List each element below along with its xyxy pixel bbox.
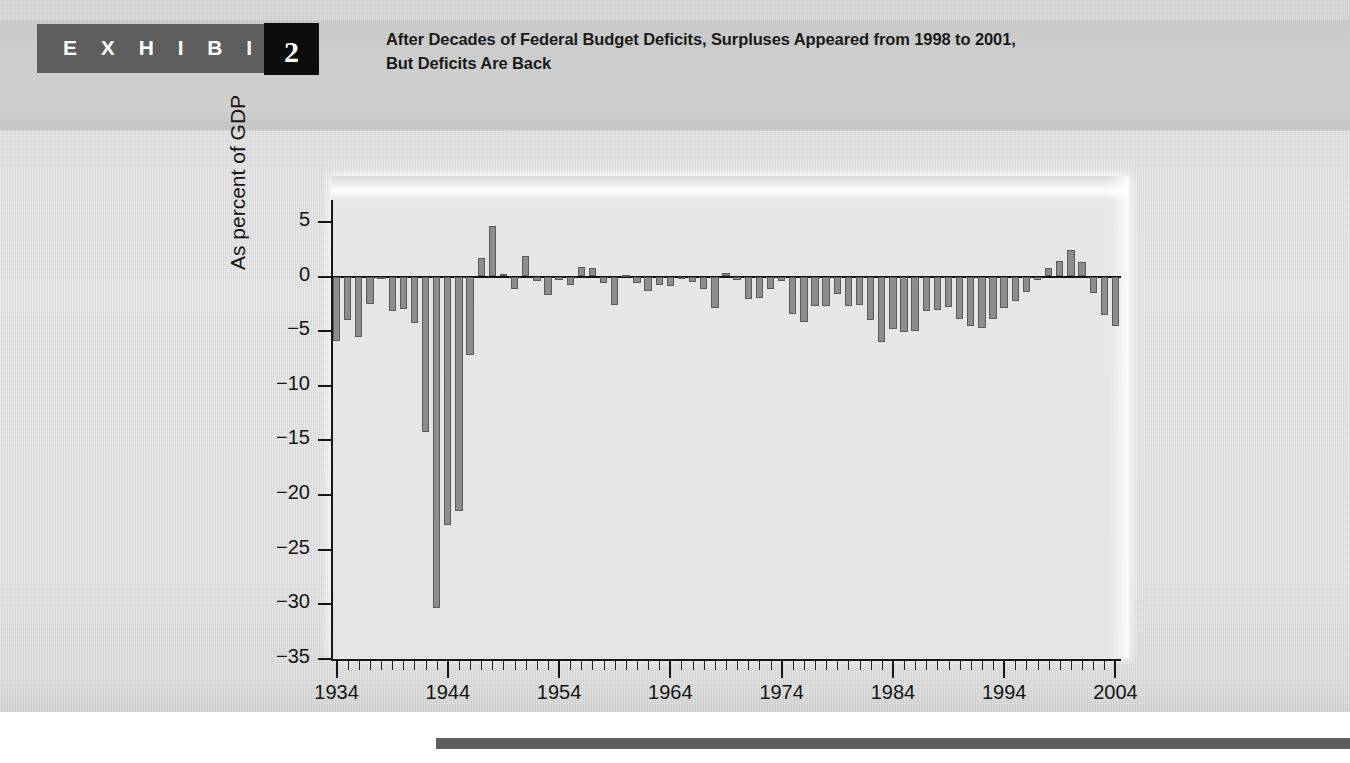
x-tick-minor-1990	[960, 661, 961, 670]
bar-1976	[800, 277, 807, 323]
x-tick-major-1944	[447, 661, 449, 678]
x-tick-label-1984: 1984	[871, 681, 916, 704]
bar-1948	[489, 226, 496, 276]
bar-1951	[522, 256, 529, 277]
exhibit-title: After Decades of Federal Budget Deficits…	[386, 27, 1186, 75]
x-tick-minor-1983	[882, 661, 883, 670]
x-tick-minor-1936	[359, 661, 360, 670]
x-tick-minor-1972	[759, 661, 760, 670]
x-tick-minor-1987	[926, 661, 927, 670]
y-tick--25	[318, 549, 331, 551]
x-tick-label-1964: 1964	[648, 681, 693, 704]
x-tick-label-1954: 1954	[537, 681, 582, 704]
bar-1960	[622, 275, 629, 277]
y-tick-label-0: 0	[238, 263, 310, 286]
bar-1979	[834, 277, 841, 294]
bar-1981	[856, 277, 863, 305]
bar-1953	[544, 277, 551, 296]
y-tick-0	[318, 276, 331, 278]
x-tick-minor-1948	[492, 661, 493, 670]
x-tick-minor-1979	[837, 661, 838, 670]
bar-1969	[722, 273, 729, 276]
exhibit-page: E X H I B I T 2 After Decades of Federal…	[0, 0, 1350, 763]
bar-1999	[1056, 261, 1063, 276]
x-tick-minor-1973	[771, 661, 772, 670]
bar-1946	[466, 277, 473, 356]
x-tick-minor-1938	[381, 661, 382, 670]
x-tick-major-1964	[669, 661, 671, 678]
y-tick-label-5: 5	[238, 208, 310, 231]
bar-1991	[967, 277, 974, 326]
bar-1958	[600, 277, 607, 284]
x-tick-minor-1955	[570, 661, 571, 670]
bar-1956	[578, 267, 585, 277]
bar-1963	[656, 277, 663, 286]
bar-1950	[511, 277, 518, 289]
bar-1945	[455, 277, 462, 512]
y-tick--35	[318, 658, 331, 660]
bar-1982	[867, 277, 874, 321]
x-tick-minor-1967	[704, 661, 705, 670]
bar-1934	[333, 277, 340, 341]
bar-1955	[567, 277, 574, 286]
bar-2003	[1101, 277, 1108, 315]
bar-1985	[900, 277, 907, 333]
x-tick-minor-1975	[793, 661, 794, 670]
bar-1975	[789, 277, 796, 314]
y-tick-label--10: −10	[238, 372, 310, 395]
y-tick-label--15: −15	[238, 426, 310, 449]
x-tick-minor-1970	[737, 661, 738, 670]
x-tick-minor-1997	[1038, 661, 1039, 670]
bar-1961	[633, 277, 640, 284]
bar-1943	[433, 277, 440, 608]
bar-1989	[945, 277, 952, 308]
bar-1986	[911, 277, 918, 332]
bar-2001	[1078, 262, 1085, 276]
bar-1966	[689, 277, 696, 282]
x-tick-minor-1959	[615, 661, 616, 670]
bar-1990	[956, 277, 963, 320]
x-tick-minor-1952	[537, 661, 538, 670]
x-tick-minor-1947	[481, 661, 482, 670]
x-tick-minor-1937	[370, 661, 371, 670]
x-tick-label-1934: 1934	[314, 681, 359, 704]
bar-1972	[756, 277, 763, 299]
exhibit-label: E X H I B I T	[63, 33, 298, 63]
x-tick-minor-1946	[470, 661, 471, 670]
x-tick-minor-1953	[548, 661, 549, 670]
x-tick-minor-1982	[871, 661, 872, 670]
bar-1995	[1012, 277, 1019, 301]
x-tick-minor-1981	[860, 661, 861, 670]
y-tick-label--25: −25	[238, 536, 310, 559]
bar-1964	[667, 277, 674, 287]
bar-1992	[978, 277, 985, 328]
x-tick-minor-1945	[459, 661, 460, 670]
bar-1967	[700, 277, 707, 289]
x-tick-minor-1976	[804, 661, 805, 670]
x-tick-minor-1968	[715, 661, 716, 670]
x-tick-label-2004: 2004	[1093, 681, 1138, 704]
y-tick-label--5: −5	[238, 317, 310, 340]
bar-1938	[377, 277, 384, 279]
x-tick-minor-2003	[1104, 661, 1105, 670]
x-tick-minor-1991	[971, 661, 972, 670]
x-tick-minor-1977	[815, 661, 816, 670]
bar-1954	[555, 277, 562, 280]
x-tick-minor-1971	[748, 661, 749, 670]
x-tick-minor-1993	[993, 661, 994, 670]
bar-1949	[500, 274, 507, 276]
bar-1940	[400, 277, 407, 310]
bar-1978	[822, 277, 829, 307]
bar-2000	[1067, 250, 1074, 276]
x-tick-minor-1941	[414, 661, 415, 670]
x-tick-major-1954	[558, 661, 560, 678]
x-tick-minor-1966	[693, 661, 694, 670]
x-tick-minor-1940	[403, 661, 404, 670]
x-tick-minor-1961	[637, 661, 638, 670]
bar-2002	[1090, 277, 1097, 293]
x-tick-minor-1960	[626, 661, 627, 670]
bar-1993	[989, 277, 996, 320]
bar-1994	[1000, 277, 1007, 309]
bar-1983	[878, 277, 885, 343]
x-tick-label-1944: 1944	[426, 681, 471, 704]
